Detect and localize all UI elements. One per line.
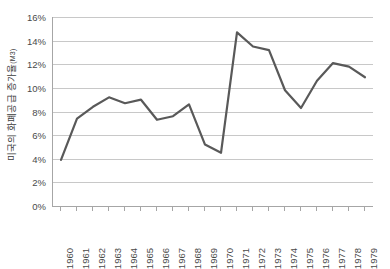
x-axis-tick-label: 1961 [80,248,91,269]
x-axis-tick-label: 1969 [208,248,219,269]
x-axis-tick-label: 1975 [304,248,315,269]
x-axis-tick-label: 1977 [336,248,347,269]
y-axis-tick-label: 0% [32,201,46,212]
x-axis-tick-label: 1972 [256,248,267,269]
x-axis-tick [108,207,109,211]
series-line-m3 [53,17,373,206]
x-axis-tick-label: 1976 [320,248,331,269]
x-axis-tick-label: 1962 [96,248,107,269]
x-axis-tick [156,207,157,211]
x-axis-tick-label: 1970 [224,248,235,269]
x-axis-tick-label: 1965 [144,248,155,269]
x-axis-tick [300,207,301,211]
x-axis-tick [220,207,221,211]
x-axis-tick [204,207,205,211]
x-axis-tick [92,207,93,211]
x-axis-tick [284,207,285,211]
x-axis-tick-label: 1966 [160,248,171,269]
x-axis-tick [268,207,269,211]
y-axis-tick-label: 4% [32,153,46,164]
x-axis-tick-label: 1964 [128,248,139,269]
x-axis-tick [124,207,125,211]
plot-area [52,17,373,207]
y-axis-tick-label: 6% [32,130,46,141]
x-axis-tick [60,207,61,211]
x-axis-tick [140,207,141,211]
x-axis-tick-label: 1967 [176,248,187,269]
x-axis-tick [76,207,77,211]
y-axis-tick-label: 10% [27,82,46,93]
x-axis-tick [348,207,349,211]
y-axis-tick-label: 2% [32,177,46,188]
x-axis-tick [364,207,365,211]
y-axis-tick-label: 16% [27,12,46,23]
y-axis-title-sub: (M3) [9,49,16,64]
x-axis-tick [188,207,189,211]
y-axis-tick-labels: 0%2%4%6%8%10%12%14%16% [16,0,49,215]
y-axis-tick-label: 14% [27,35,46,46]
x-axis-tick-label: 1974 [288,248,299,269]
y-axis-tick-label: 8% [32,106,46,117]
x-axis-tick [236,207,237,211]
x-axis-tick [172,207,173,211]
series-polyline [61,32,365,160]
x-axis-tick [332,207,333,211]
x-axis-tick [316,207,317,211]
x-axis-tick [252,207,253,211]
y-axis-tick-label: 12% [27,59,46,70]
x-axis-tick-labels: 1960196119621963196419651966196719681969… [52,212,373,252]
x-axis-tick-label: 1960 [64,248,75,269]
x-axis-tick-label: 1979 [368,248,379,269]
x-axis-tick-label: 1973 [272,248,283,269]
x-axis-tick-label: 1978 [352,248,363,269]
x-axis-tick-label: 1971 [240,248,251,269]
x-axis-tick-label: 1963 [112,248,123,269]
x-axis-tick-label: 1968 [192,248,203,269]
